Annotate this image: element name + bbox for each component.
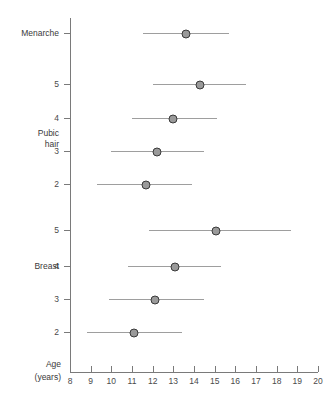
group-label: Pubichair (38, 128, 59, 150)
group-label-line: Pubic (38, 128, 59, 139)
y-axis-tick (64, 230, 70, 231)
x-axis-tick-label: 9 (81, 375, 101, 387)
median-marker (169, 114, 178, 123)
y-axis-tick (64, 151, 70, 152)
median-marker (196, 80, 205, 89)
group-label: Breast (34, 261, 59, 272)
y-axis-tick (64, 84, 70, 85)
group-label: Menarche (21, 28, 59, 39)
x-axis-tick-label: 17 (246, 375, 266, 387)
median-marker (181, 29, 190, 38)
y-axis-tick-label: 2 (19, 327, 59, 337)
y-axis-tick-label: 5 (19, 79, 59, 89)
x-axis-tick (132, 366, 133, 372)
x-axis-tick-label: 16 (225, 375, 245, 387)
x-axis-tick-label: 19 (287, 375, 307, 387)
y-axis-tick (64, 118, 70, 119)
median-marker (211, 226, 220, 235)
x-axis-tick-label: 11 (122, 375, 142, 387)
x-axis-tick-label: 18 (267, 375, 287, 387)
x-axis-tick-label: 12 (143, 375, 163, 387)
y-axis-tick (64, 332, 70, 333)
x-axis-tick (153, 366, 154, 372)
chart-container: 54325432 MenarchePubichairBreast 8910111… (0, 0, 333, 408)
x-axis-tick (277, 366, 278, 372)
y-axis-line (70, 18, 71, 373)
median-marker (150, 295, 159, 304)
y-axis-tick (64, 266, 70, 267)
y-axis-tick (64, 299, 70, 300)
x-axis-title-line: (years) (35, 371, 61, 384)
x-axis-tick (194, 366, 195, 372)
x-axis-tick (215, 366, 216, 372)
x-axis-title: Age(years) (35, 358, 61, 384)
y-axis-tick-label: 5 (19, 225, 59, 235)
x-axis-tick (91, 366, 92, 372)
x-axis-tick (256, 366, 257, 372)
x-axis-tick-label: 8 (60, 375, 80, 387)
x-axis-tick (70, 366, 71, 372)
x-axis-tick-label: 20 (308, 375, 328, 387)
x-axis-tick-label: 14 (184, 375, 204, 387)
y-axis-tick-label: 2 (19, 179, 59, 189)
x-axis-tick-label: 13 (163, 375, 183, 387)
x-axis-tick (111, 366, 112, 372)
x-axis-tick (235, 366, 236, 372)
group-label-line: Menarche (21, 28, 59, 39)
x-axis-title-line: Age (35, 358, 61, 371)
median-marker (152, 147, 161, 156)
median-marker (171, 262, 180, 271)
x-axis-tick (173, 366, 174, 372)
y-axis-tick (64, 184, 70, 185)
group-label-line: hair (38, 139, 59, 150)
x-axis-line (70, 372, 318, 373)
median-marker (142, 180, 151, 189)
y-axis-tick-label: 3 (19, 294, 59, 304)
x-axis-tick-label: 15 (205, 375, 225, 387)
median-marker (130, 328, 139, 337)
y-axis-tick-label: 4 (19, 113, 59, 123)
x-axis-tick (297, 366, 298, 372)
group-label-line: Breast (34, 261, 59, 272)
y-axis-tick (64, 33, 70, 34)
x-axis-tick (318, 366, 319, 372)
x-axis-tick-label: 10 (101, 375, 121, 387)
